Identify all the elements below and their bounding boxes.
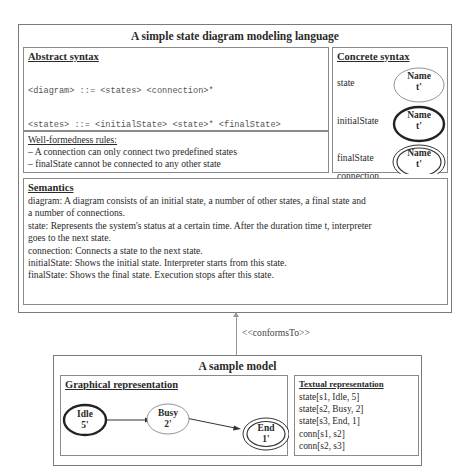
initial-state-shape-text: Name t': [394, 110, 444, 132]
wellformedness-header: Well-formedness rules:: [28, 134, 117, 146]
grammar-rule: <states> ::= <initialState> <state>* <fi…: [28, 120, 281, 131]
textual-line: state[s3, End, 1]: [299, 415, 364, 427]
conforms-to-arrowhead-icon: [233, 312, 239, 317]
textual-line: state[s2, Busy, 2]: [299, 403, 364, 415]
textual-line: state[s1, Idle, 5]: [299, 391, 364, 403]
abstract-syntax-box: Abstract syntax <diagram> ::= <states> <…: [23, 47, 329, 131]
connection-idle-busy: [107, 418, 151, 423]
wellformedness-box: Well-formedness rules: – A connection ca…: [23, 131, 329, 173]
final-state-shape-text: Name t': [394, 148, 444, 170]
abstract-syntax-header: Abstract syntax: [28, 51, 99, 62]
textual-representation-box: Textual representation state[s1, Idle, 5…: [294, 375, 419, 456]
end-state-text: End 1': [245, 423, 287, 445]
conforms-to-line: [236, 313, 237, 355]
language-title: A simple state diagram modeling language: [19, 30, 451, 42]
semantics-line: state: Represents the system's status at…: [28, 220, 448, 232]
textual-line: conn[s1, s2]: [299, 428, 364, 440]
wellformedness-rule: – finalState cannot be connected to any …: [28, 158, 221, 170]
wellformedness-rule: – A connection can only connect two pred…: [28, 146, 237, 158]
semantics-box: Semantics diagram: A diagram consists of…: [23, 178, 448, 305]
textual-header: Textual representation: [299, 379, 384, 389]
semantics-text: diagram: A diagram consists of an initia…: [28, 195, 448, 282]
semantics-line: initialState: Shows the initial state. I…: [28, 257, 448, 269]
semantics-line: finalState: Shows the final state. Execu…: [28, 269, 448, 281]
semantics-line: a number of connections.: [28, 207, 448, 219]
textual-lines: state[s1, Idle, 5] state[s2, Busy, 2] st…: [299, 391, 364, 452]
sample-model-box: A sample model Graphical representation …: [53, 355, 422, 466]
semantics-header: Semantics: [28, 182, 74, 193]
concrete-syntax-box: Concrete syntax state initialState final…: [332, 47, 448, 173]
grammar-rule: <diagram> ::= <states> <connection>*: [28, 86, 281, 97]
semantics-line: diagram: A diagram consists of an initia…: [28, 195, 448, 207]
conforms-to-label: <<conformsTo>>: [242, 327, 310, 339]
language-box: A simple state diagram modeling language…: [18, 24, 452, 313]
textual-line: conn[s2, s3]: [299, 440, 364, 452]
busy-state-text: Busy 2': [147, 408, 189, 430]
semantics-line: goes to the next state.: [28, 232, 448, 244]
state-shape-text: Name t': [394, 71, 444, 93]
graphical-representation-box: Graphical representation Idle 5' Busy 2'…: [60, 375, 288, 456]
connection-busy-end: [181, 417, 241, 431]
idle-state-text: Idle 5': [64, 409, 106, 431]
semantics-line: connection: Connects a state to the next…: [28, 245, 448, 257]
sample-model-title: A sample model: [54, 360, 421, 372]
